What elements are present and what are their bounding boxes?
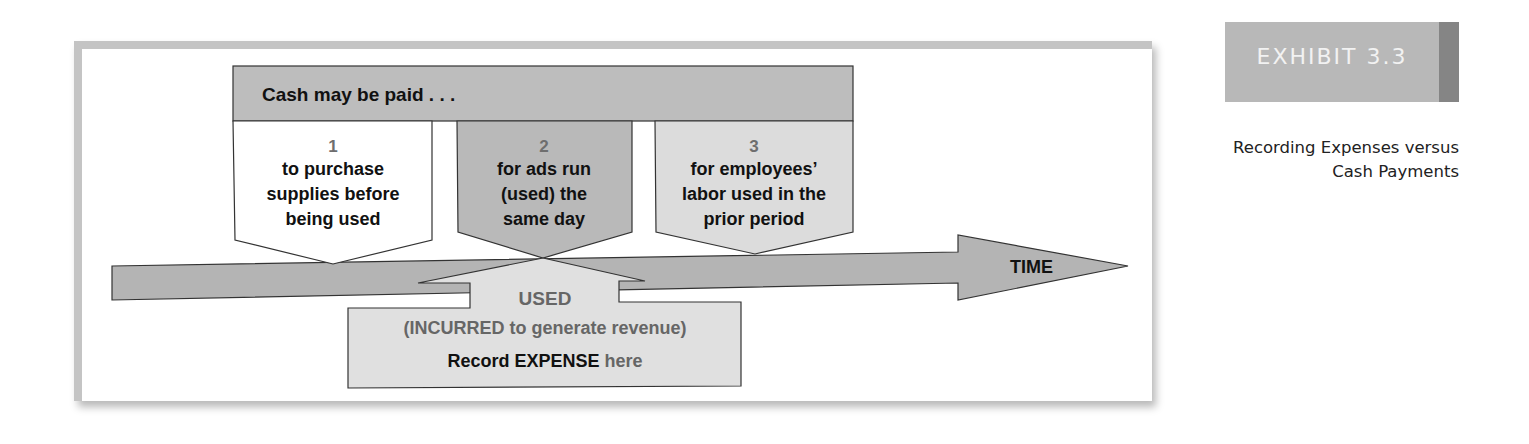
- box-1-line-2: supplies before: [266, 184, 399, 204]
- box-2-line-3: same day: [503, 209, 585, 229]
- record-expense-here: here: [600, 351, 643, 371]
- record-expense-bold: Record EXPENSE: [447, 351, 599, 371]
- used-subtitle: (INCURRED to generate revenue): [403, 318, 686, 338]
- record-expense-text: Record EXPENSE here: [447, 351, 642, 371]
- caption-line-1: Recording Expenses versus: [1160, 136, 1459, 160]
- caption-line-2: Cash Payments: [1160, 160, 1459, 184]
- box-3-line-2: labor used in the: [682, 184, 826, 204]
- box-3-number: 3: [749, 137, 758, 156]
- exhibit-caption: Recording Expenses versus Cash Payments: [1160, 136, 1459, 184]
- box-1-number: 1: [328, 137, 337, 156]
- box-2-number: 2: [539, 137, 548, 156]
- box-2-line-1: for ads run: [497, 159, 591, 179]
- time-label: TIME: [1010, 257, 1053, 277]
- box-2-line-2: (used) the: [501, 184, 587, 204]
- box-3-line-1: for employees’: [690, 159, 817, 179]
- exhibit-badge: EXHIBIT 3.3: [1225, 22, 1459, 102]
- used-title: USED: [519, 288, 572, 309]
- exhibit-label: EXHIBIT 3.3: [1225, 44, 1439, 69]
- cash-header-text: Cash may be paid . . .: [262, 84, 455, 105]
- box-1-line-3: being used: [285, 209, 380, 229]
- box-3-line-3: prior period: [703, 209, 804, 229]
- box-1-line-1: to purchase: [282, 159, 384, 179]
